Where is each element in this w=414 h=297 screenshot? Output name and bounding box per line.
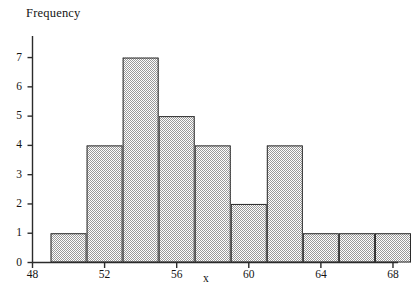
y-tick-label: 4	[6, 138, 22, 150]
y-tick-label: 1	[6, 226, 22, 238]
x-tick-label: 60	[236, 268, 262, 280]
histogram-bar	[267, 145, 303, 262]
x-tick-label: 68	[380, 268, 406, 280]
histogram-bar	[123, 58, 159, 263]
y-tick-label: 0	[6, 256, 22, 268]
histogram-bar	[51, 233, 87, 262]
histogram-bar	[87, 145, 123, 262]
y-tick-label: 6	[6, 80, 22, 92]
histogram-bar	[159, 116, 195, 262]
y-tick-marks	[28, 58, 33, 263]
histogram-bar	[195, 145, 231, 262]
x-tick-label: 48	[20, 268, 46, 280]
histogram-bar	[375, 233, 411, 262]
plot-area	[0, 0, 414, 297]
histogram-bar	[231, 204, 267, 263]
x-tick-label: 52	[92, 268, 118, 280]
bars-group	[51, 58, 411, 263]
y-tick-label: 5	[6, 109, 22, 121]
y-tick-label: 7	[6, 51, 22, 63]
histogram-bar	[339, 233, 375, 262]
y-tick-label: 3	[6, 168, 22, 180]
x-tick-marks	[33, 263, 393, 269]
histogram-bar	[303, 233, 339, 262]
x-tick-label: 64	[308, 268, 334, 280]
histogram-figure: Frequency x 01234567 485256606468	[0, 0, 414, 297]
y-tick-label: 2	[6, 197, 22, 209]
x-tick-label: 56	[164, 268, 190, 280]
